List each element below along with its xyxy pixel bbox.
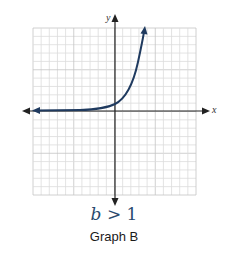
x-axis-right-arrow-icon (202, 108, 210, 115)
x-axis-left-arrow-icon (22, 108, 30, 115)
x-axis-label: x (211, 104, 217, 115)
y-axis-up-arrow-icon (112, 14, 119, 22)
y-axis-label: y (105, 12, 111, 23)
graph-title: Graph B (0, 229, 228, 244)
y-axis: y (105, 12, 119, 206)
condition-label: b > 1 (0, 204, 228, 224)
curve-up-arrow-icon (141, 26, 148, 35)
